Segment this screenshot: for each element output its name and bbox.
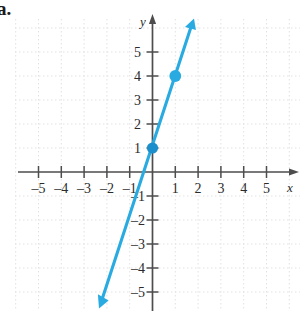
x-tick-label: 3	[217, 181, 224, 196]
y-tick-label: 5	[134, 45, 141, 60]
x-axis-label: x	[286, 180, 293, 195]
y-tick-label: 4	[134, 69, 141, 84]
point-1-4	[169, 70, 181, 82]
y-tick-label: 1	[134, 141, 141, 156]
plotted-line	[98, 19, 196, 309]
y-tick-label: –5	[130, 285, 145, 300]
x-tick-label: –4	[53, 181, 68, 196]
x-tick-label: 4	[240, 181, 247, 196]
y-tick-label: –4	[130, 261, 145, 276]
part-label: a.	[0, 0, 11, 19]
x-tick-label: 1	[172, 181, 179, 196]
x-tick-labels: –5 –4 –3 –2 –1 1 2 3 4 5	[31, 181, 271, 196]
y-tick-label: –3	[130, 237, 145, 252]
y-tick-label: 3	[134, 93, 141, 108]
x-tick-label: –3	[76, 181, 91, 196]
coordinate-plane: –5 –4 –3 –2 –1 1 2 3 4 5 5 4 3 2 1 –1 –2…	[0, 0, 305, 316]
point-0-1	[147, 142, 158, 153]
x-axis	[18, 168, 299, 175]
x-tick-label: 2	[195, 181, 202, 196]
y-tick-label: –2	[130, 213, 145, 228]
x-tick-label: –2	[99, 181, 114, 196]
x-tick-label: –5	[31, 181, 46, 196]
y-tick-label: 2	[134, 117, 141, 132]
grid-lines	[15, 19, 300, 311]
figure-container: a.	[0, 0, 305, 316]
y-axis	[149, 14, 156, 311]
y-axis-label: y	[138, 14, 146, 29]
x-tick-label: 5	[263, 181, 270, 196]
